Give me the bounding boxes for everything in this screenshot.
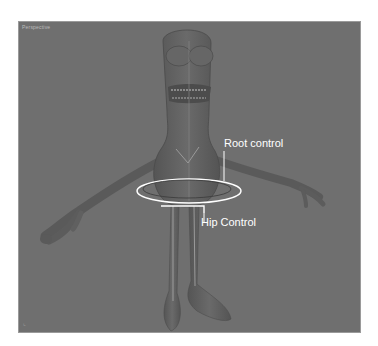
axis-gizmo-icon: ⌞ [23,319,26,326]
root-control-label: Root control [224,137,283,149]
character-rig-scene[interactable] [19,22,361,333]
hip-control-label: Hip Control [201,216,256,228]
perspective-viewport[interactable]: Perspective [18,21,361,333]
left-arm [40,161,161,244]
